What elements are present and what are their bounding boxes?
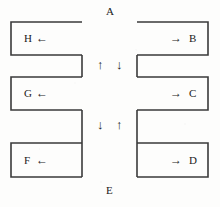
arrow-f-left-icon: ← (36, 154, 48, 166)
arrow-upper-left-up-icon: ↑ (97, 58, 104, 71)
comb-diagram (0, 0, 220, 207)
label-c: C (189, 88, 196, 99)
arrow-h-left-icon: ← (36, 32, 48, 44)
label-b: B (189, 33, 196, 44)
arrow-d-right-icon: → (170, 154, 182, 166)
arrow-upper-right-down-icon: ↓ (116, 58, 123, 71)
arrow-c-right-icon: → (170, 87, 182, 99)
arrow-g-left-icon: ← (36, 87, 48, 99)
arrow-lower-right-up-icon: ↑ (116, 118, 123, 131)
arrow-lower-left-down-icon: ↓ (97, 118, 104, 131)
label-d: D (189, 155, 197, 166)
label-g: G (24, 88, 32, 99)
label-f: F (24, 155, 30, 166)
label-a: A (106, 6, 114, 17)
diagram-canvas: A E H ← G ← F ← → B → C → D ↑ ↓ ↓ ↑ (0, 0, 220, 207)
arrow-b-right-icon: → (170, 32, 182, 44)
label-h: H (24, 33, 32, 44)
label-e: E (106, 185, 113, 196)
